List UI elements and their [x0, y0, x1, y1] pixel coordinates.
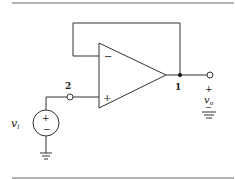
- plus-input-sign: +: [103, 92, 111, 103]
- source-wire: [46, 97, 67, 110]
- vo-plus-sign: +: [205, 84, 213, 94]
- node2-terminal: [67, 94, 73, 100]
- circuit-diagram: − + 2 1 + − vi + vo −: [0, 0, 235, 179]
- node1-junction-dot: [178, 73, 182, 77]
- source-minus-sign: −: [43, 124, 51, 134]
- vo-minus-sign: −: [205, 103, 212, 112]
- source-plus-sign: +: [42, 113, 50, 123]
- output-terminal: [207, 72, 213, 78]
- feedback-wire: [73, 23, 180, 75]
- node2-label: 2: [65, 81, 71, 91]
- node1-label: 1: [175, 82, 181, 92]
- ground-icon-output: [202, 112, 216, 118]
- ground-icon-source: [40, 153, 52, 159]
- vi-label: vi: [11, 117, 19, 131]
- minus-input-sign: −: [104, 51, 112, 62]
